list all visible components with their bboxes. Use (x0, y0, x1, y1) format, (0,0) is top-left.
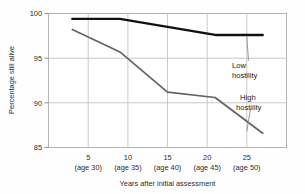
annotation-low-hostility-line2: hostility (232, 71, 258, 80)
x-tick-sublabel-3: (age 40) (154, 163, 182, 172)
annotation-high-hostility-line1: High (240, 93, 256, 102)
y-tick-label-100: 100 (30, 9, 42, 18)
x-tick-label-4: 20 (203, 153, 211, 162)
x-tick-label-5: 25 (243, 153, 251, 162)
x-axis-title: Years after initial assessment (120, 179, 216, 188)
annotation-low-hostility-line1: Low (232, 61, 246, 70)
x-tick-label-2: 10 (124, 153, 132, 162)
x-tick-sublabel-4: (age 45) (193, 163, 221, 172)
x-tick-sublabel-5: (age 50) (233, 163, 261, 172)
x-tick-label-3: 15 (163, 153, 171, 162)
survival-line-chart: 100 95 90 85 Percentage still alive 5 (a… (0, 0, 305, 194)
x-tick-sublabel-1: (age 30) (74, 163, 102, 172)
y-tick-label-90: 90 (34, 99, 42, 108)
annotation-high-hostility-line2: hostility (236, 103, 262, 112)
y-axis-title: Percentage still alive (7, 46, 16, 114)
y-tick-label-85: 85 (34, 143, 42, 152)
chart-container: 100 95 90 85 Percentage still alive 5 (a… (0, 0, 305, 194)
x-tick-label-1: 5 (86, 153, 90, 162)
x-tick-sublabel-2: (age 35) (114, 163, 142, 172)
y-tick-label-95: 95 (34, 54, 42, 63)
